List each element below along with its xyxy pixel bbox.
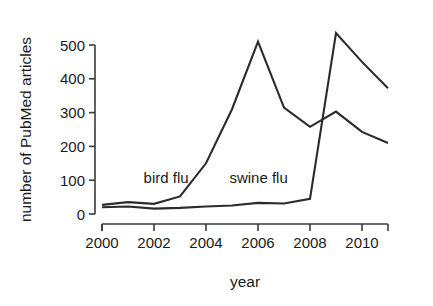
x-tick-label: 2008 — [293, 234, 326, 251]
x-tick-label: 2006 — [241, 234, 274, 251]
x-tick-label: 2004 — [189, 234, 222, 251]
x-tick-label: 2002 — [137, 234, 170, 251]
y-tick-label: 100 — [60, 172, 85, 189]
y-tick-label: 300 — [60, 104, 85, 121]
chart-figure: 0100200300400500 20002002200420062008201… — [0, 0, 433, 306]
y-axis: 0100200300400500 — [60, 37, 95, 223]
y-tick-label: 200 — [60, 138, 85, 155]
x-axis-title: year — [230, 273, 260, 290]
y-axis-title: number of PubMed articles — [17, 37, 34, 222]
line-chart-svg: 0100200300400500 20002002200420062008201… — [0, 0, 433, 306]
x-axis: 200020022004200620082010 — [85, 224, 388, 251]
y-tick-label: 0 — [77, 206, 85, 223]
series-annotation: bird flu — [144, 169, 189, 186]
y-tick-label: 500 — [60, 37, 85, 54]
x-tick-label: 2000 — [85, 234, 118, 251]
x-tick-label: 2010 — [345, 234, 378, 251]
series-annotation: swine flu — [229, 169, 287, 186]
series-annotations: bird fluswine flu — [144, 169, 288, 186]
y-tick-label: 400 — [60, 70, 85, 87]
